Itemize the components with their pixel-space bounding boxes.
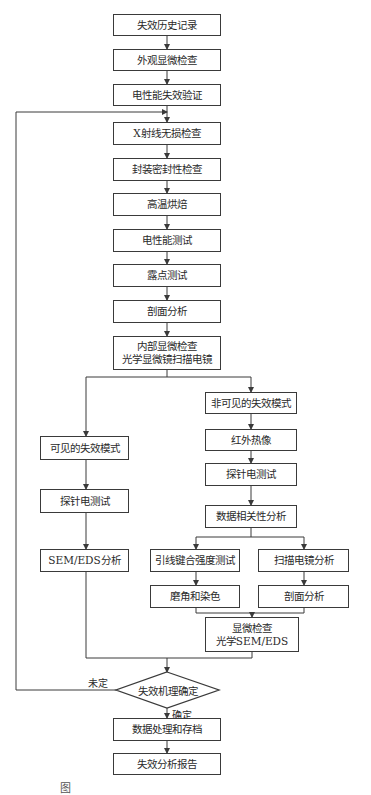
step-invisible-failure-mode: 非可见的失效模式: [205, 392, 297, 414]
figure-caption: 图: [60, 779, 71, 795]
step-label: 高温烘焙: [147, 198, 187, 211]
step-wire-bond-test: 引线键合强度测试: [150, 549, 240, 572]
step-electrical-test: 电性能测试: [113, 229, 221, 252]
step-label: 数据相关性分析: [216, 510, 286, 523]
step-data-correlation: 数据相关性分析: [205, 505, 297, 528]
step-visual-inspection: 外观显微检查: [113, 49, 221, 71]
step-micro-check: 显微检查 光学SEM/EDS: [205, 617, 299, 652]
step-label: SEM/EDS分析: [48, 554, 120, 567]
step-label: 数据处理和存档: [132, 723, 202, 736]
step-hermetic-check: 封装密封性检查: [113, 158, 221, 181]
decision-no-label: 未定: [88, 675, 108, 690]
step-dewpoint-test: 露点测试: [113, 264, 221, 287]
step-xray-inspection: X射线无损检查: [113, 122, 221, 145]
step-internal-microscopy: 内部显微检查 光学显微镜扫描电镜: [113, 336, 221, 370]
step-sem-eds-analysis: SEM/EDS分析: [40, 549, 129, 572]
step-failure-history: 失效历史记录: [113, 14, 221, 36]
step-label: 失效分析报告: [137, 758, 197, 771]
step-label: 非可见的失效模式: [211, 397, 291, 410]
step-label: 露点测试: [147, 269, 187, 282]
step-label: 引线键合强度测试: [155, 554, 235, 567]
step-electrical-verification: 电性能失效验证: [113, 84, 221, 106]
step-probe-test-right: 探针电测试: [205, 463, 297, 486]
decision-label: 失效机理确定: [138, 685, 198, 697]
step-bevel-stain: 磨角和染色: [150, 585, 240, 608]
step-label: 封装密封性检查: [132, 163, 202, 176]
step-label: 剖面分析: [147, 305, 187, 318]
step-label-line-2: 光学SEM/EDS: [216, 635, 288, 648]
step-label: 电性能测试: [142, 234, 192, 247]
step-label: 探针电测试: [60, 495, 110, 508]
step-data-archive: 数据处理和存档: [113, 718, 221, 741]
step-label: 扫描电镜分析: [274, 554, 334, 567]
decision-failure-mechanism: 失效机理确定: [116, 683, 219, 698]
step-cross-section-2: 剖面分析: [258, 585, 349, 608]
step-label: 电性能失效验证: [132, 89, 202, 102]
step-label: 剖面分析: [284, 590, 324, 603]
step-label: 外观显微检查: [137, 54, 197, 67]
step-sem-analysis: 扫描电镜分析: [258, 549, 349, 572]
step-failure-report: 失效分析报告: [113, 753, 221, 775]
step-label: 磨角和染色: [170, 590, 220, 603]
step-label-line-1: 显微检查: [232, 622, 272, 635]
step-label: 可见的失效模式: [50, 442, 120, 455]
step-label-line-1: 内部显微检查: [137, 340, 197, 353]
step-label: 失效历史记录: [137, 19, 197, 32]
step-label: 探针电测试: [226, 468, 276, 481]
step-probe-test-left: 探针电测试: [40, 489, 129, 513]
step-cross-section: 剖面分析: [113, 300, 221, 323]
step-visible-failure-mode: 可见的失效模式: [40, 436, 129, 460]
step-high-temp-bake: 高温烘焙: [113, 193, 221, 216]
step-infrared-imaging: 红外热像: [205, 429, 297, 451]
step-label: 红外热像: [231, 434, 271, 447]
step-label-line-2: 光学显微镜扫描电镜: [122, 353, 212, 366]
step-label: X射线无损检查: [133, 127, 200, 140]
